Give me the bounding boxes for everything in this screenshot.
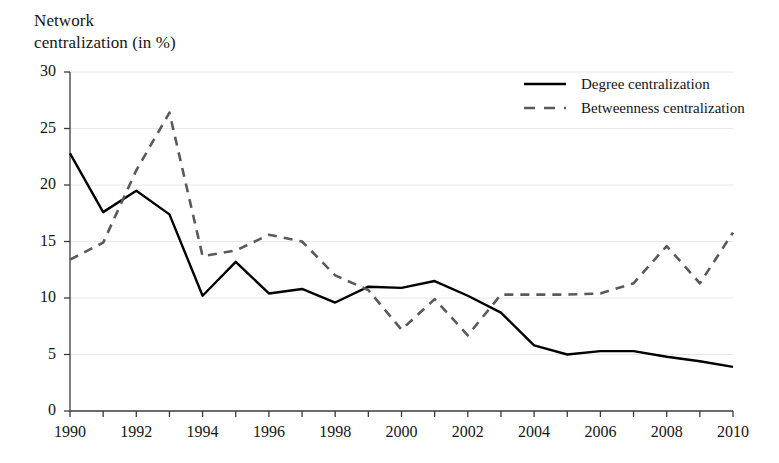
y-tick-label: 0 <box>26 401 56 419</box>
y-axis-ticks <box>64 72 70 411</box>
series-line-1 <box>70 113 733 336</box>
y-tick-label: 30 <box>26 62 56 80</box>
y-tick-label: 5 <box>26 345 56 363</box>
x-tick-label: 2002 <box>438 423 498 441</box>
legend-item-degree: Degree centralization <box>523 72 745 96</box>
x-tick-label: 1992 <box>106 423 166 441</box>
x-axis-ticks <box>70 411 733 417</box>
y-tick-label: 20 <box>26 175 56 193</box>
legend-swatch-solid-icon <box>523 78 567 90</box>
x-tick-label: 2000 <box>372 423 432 441</box>
y-tick-label: 10 <box>26 288 56 306</box>
y-tick-label: 25 <box>26 119 56 137</box>
legend-item-betweenness: Betweenness centralization <box>523 96 745 120</box>
x-tick-label: 2008 <box>637 423 697 441</box>
legend-swatch-dashed-icon <box>523 102 567 114</box>
x-tick-label: 1994 <box>173 423 233 441</box>
chart-figure: Network centralization (in %) 0510152025… <box>0 0 779 463</box>
legend-label-betweenness: Betweenness centralization <box>581 100 745 117</box>
x-tick-label: 1996 <box>239 423 299 441</box>
x-tick-label: 2010 <box>703 423 763 441</box>
x-tick-label: 2004 <box>504 423 564 441</box>
x-tick-label: 1998 <box>305 423 365 441</box>
data-series-layer <box>70 113 733 367</box>
plot-area <box>0 0 779 463</box>
x-tick-label: 1990 <box>40 423 100 441</box>
chart-legend: Degree centralization Betweenness centra… <box>523 72 745 120</box>
legend-label-degree: Degree centralization <box>581 76 710 93</box>
y-tick-label: 15 <box>26 232 56 250</box>
x-tick-label: 2006 <box>570 423 630 441</box>
